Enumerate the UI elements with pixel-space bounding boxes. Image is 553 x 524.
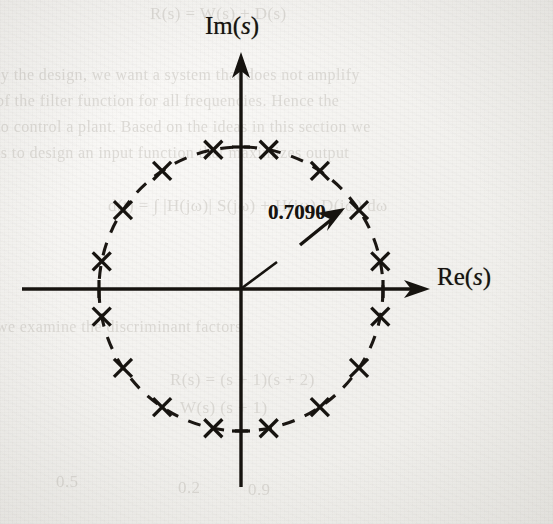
pole-marker bbox=[114, 359, 132, 377]
pole-marker bbox=[350, 359, 368, 377]
radius-annotation-value: 0.7090 bbox=[268, 200, 326, 225]
imaginary-axis bbox=[232, 52, 250, 487]
pole-marker bbox=[114, 201, 132, 219]
pole-marker bbox=[153, 398, 171, 416]
figure-container: R(s) = W(s) + D(s)ly the design, we want… bbox=[0, 0, 553, 524]
imaginary-axis-label-variable: s bbox=[241, 12, 251, 39]
real-axis-label-prefix: Re( bbox=[437, 263, 473, 290]
imaginary-axis-label-suffix: ) bbox=[251, 12, 259, 39]
pole-plot-canvas bbox=[0, 0, 553, 524]
real-axis-label: Re(s) bbox=[437, 263, 491, 291]
annotation-leader-line bbox=[242, 262, 277, 288]
imaginary-axis-label-prefix: Im( bbox=[205, 12, 241, 39]
pole-marker bbox=[153, 162, 171, 180]
pole-marker bbox=[311, 398, 329, 416]
real-axis-label-suffix: ) bbox=[483, 263, 491, 290]
real-axis bbox=[22, 280, 430, 298]
pole-marker bbox=[350, 201, 368, 219]
real-axis-label-variable: s bbox=[473, 263, 483, 290]
pole-marker bbox=[311, 162, 329, 180]
imaginary-axis-label: Im(s) bbox=[205, 12, 259, 40]
